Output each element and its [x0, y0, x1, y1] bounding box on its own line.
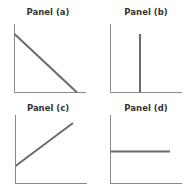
panel-a	[14, 24, 86, 93]
panel-c-line	[16, 123, 74, 166]
panel-b	[110, 24, 182, 93]
panel-a-line	[15, 34, 78, 93]
panels-chart	[0, 0, 193, 194]
panel-d	[110, 115, 182, 184]
panel-c	[15, 115, 87, 184]
